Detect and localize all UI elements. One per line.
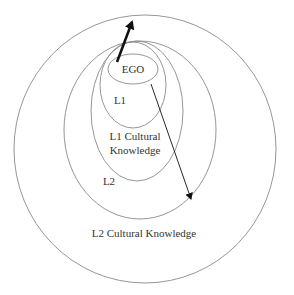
- l1-cultural-label-line2: Knowledge: [110, 144, 161, 156]
- diagram-canvas: EGO L1 L1 Cultural Knowledge L2 L2 Cultu…: [0, 0, 294, 295]
- l2-cultural-label: L2 Cultural Knowledge: [92, 227, 197, 239]
- l2-label: L2: [103, 175, 115, 187]
- nested-ellipses-diagram: EGO L1 L1 Cultural Knowledge L2 L2 Cultu…: [0, 0, 294, 295]
- l1-ellipse: [100, 42, 166, 128]
- l1-cultural-label-line1: L1 Cultural: [109, 130, 160, 142]
- ego-label: EGO: [122, 63, 145, 75]
- l1-label: L1: [114, 94, 126, 106]
